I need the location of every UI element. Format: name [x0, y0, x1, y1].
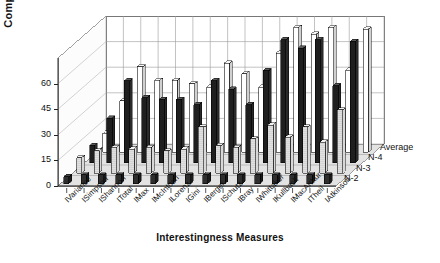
y-tick-label: 15: [25, 154, 51, 164]
y-tick-mark: [54, 84, 58, 85]
x-tick-label: IMax: [132, 186, 151, 205]
y-tick-label: 0: [25, 180, 51, 190]
y-tick-mark: [54, 135, 58, 136]
depth-axis-label-n-4: N-4: [368, 152, 383, 162]
y-tick-mark: [54, 109, 58, 110]
y-tick-mark: [54, 186, 58, 187]
x-axis-title: Interestingness Measures: [0, 232, 440, 243]
y-tick-mark: [54, 160, 58, 161]
x-axis-tick-labels: IVarianceISimpsonIShannonITotalIMaxIMcIn…: [0, 0, 440, 263]
chart-container: Complexity IVarianceISimpsonIShannonITot…: [0, 0, 440, 263]
y-tick-label: 45: [25, 103, 51, 113]
depth-axis-label-average: Average: [380, 142, 413, 152]
depth-axis-label-n-3: N-3: [356, 163, 371, 173]
depth-axis-label-n-2: N-2: [344, 173, 359, 183]
y-tick-label: 30: [25, 129, 51, 139]
y-tick-label: 60: [25, 78, 51, 88]
